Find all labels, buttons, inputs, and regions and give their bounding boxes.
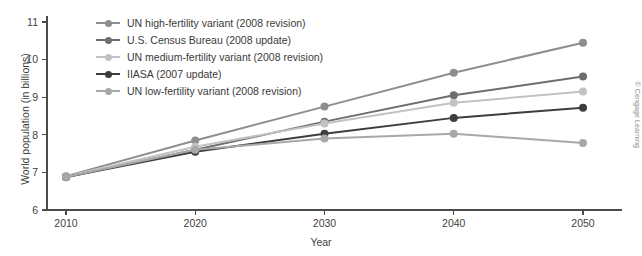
legend-item-un-low-fertility[interactable]: UN low-fertility variant (2008 revision)	[96, 83, 426, 99]
legend-marker-icon	[96, 51, 120, 63]
y-tick-label: 7	[32, 166, 38, 178]
chart-legend: UN high-fertility variant (2008 revision…	[96, 15, 426, 100]
legend-item-un-high-fertility[interactable]: UN high-fertility variant (2008 revision…	[96, 15, 426, 31]
legend-marker-icon	[96, 68, 120, 80]
series-point-0	[321, 103, 329, 111]
legend-item-iiasa[interactable]: IIASA (2007 update)	[96, 66, 426, 82]
population-projection-chart: 6789101120102020203020402050 UN high-fer…	[0, 0, 642, 256]
x-tick-label: 2010	[54, 217, 78, 229]
legend-dot-icon	[105, 54, 112, 61]
legend-marker-icon	[96, 17, 120, 29]
y-axis-title-text: World population (in billions)	[19, 53, 31, 185]
series-point-1	[579, 73, 587, 81]
x-tick-label: 2040	[442, 217, 466, 229]
legend-item-us-census-bureau[interactable]: U.S. Census Bureau (2008 update)	[96, 32, 426, 48]
series-point-1	[450, 91, 458, 99]
copyright-notice: © Cengage Learning	[634, 81, 641, 148]
x-axis-title: Year	[0, 232, 642, 250]
y-tick-label: 8	[32, 129, 38, 141]
series-point-2	[579, 88, 587, 96]
x-tick-label: 2030	[313, 217, 337, 229]
y-axis-title: World population (in billions)	[15, 39, 33, 199]
legend-dot-icon	[105, 37, 112, 44]
series-point-4	[321, 135, 329, 143]
series-point-3	[450, 114, 458, 122]
series-point-2	[450, 99, 458, 107]
series-point-2	[321, 120, 329, 128]
y-tick-label: 11	[27, 16, 38, 28]
series-point-0	[579, 39, 587, 47]
legend-dot-icon	[105, 20, 112, 27]
x-tick-label: 2050	[571, 217, 595, 229]
legend-item-label: UN low-fertility variant (2008 revision)	[127, 85, 301, 98]
series-point-0	[450, 69, 458, 77]
legend-item-label: UN high-fertility variant (2008 revision…	[127, 17, 306, 30]
legend-item-label: UN medium-fertility variant (2008 revisi…	[127, 51, 323, 64]
legend-dot-icon	[105, 71, 112, 78]
legend-marker-icon	[96, 34, 120, 46]
x-axis-title-text: Year	[310, 236, 331, 248]
legend-item-label: IIASA (2007 update)	[127, 68, 222, 81]
series-point-4	[62, 173, 70, 181]
legend-item-label: U.S. Census Bureau (2008 update)	[127, 34, 291, 47]
y-tick-label: 9	[32, 91, 38, 103]
legend-dot-icon	[105, 88, 112, 95]
series-point-3	[579, 104, 587, 112]
series-point-4	[579, 139, 587, 147]
series-point-4	[450, 130, 458, 138]
legend-item-un-medium-fertility[interactable]: UN medium-fertility variant (2008 revisi…	[96, 49, 426, 65]
x-tick-label: 2020	[184, 217, 208, 229]
y-tick-label: 6	[32, 204, 38, 216]
legend-marker-icon	[96, 85, 120, 97]
series-point-4	[191, 146, 199, 154]
